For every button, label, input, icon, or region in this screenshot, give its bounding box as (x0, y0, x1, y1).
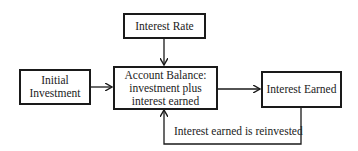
node-account-balance-line3: interest earned (124, 95, 206, 108)
node-account-balance-line2: investment plus (124, 82, 206, 95)
reinvest-loop-label: Interest earned is reinvested (174, 125, 303, 137)
node-account-balance: Account Balance: investment plus interes… (113, 66, 218, 110)
node-initial-investment: Initial Investment (19, 69, 91, 105)
node-interest-rate-label: Interest Rate (135, 20, 193, 33)
node-interest-earned-label: Interest Earned (267, 83, 337, 96)
node-initial-investment-line2: Investment (29, 87, 80, 100)
node-interest-earned: Interest Earned (261, 71, 342, 108)
node-account-balance-line1: Account Balance: (124, 69, 206, 82)
node-interest-rate: Interest Rate (123, 13, 206, 39)
node-initial-investment-line1: Initial (29, 74, 80, 87)
